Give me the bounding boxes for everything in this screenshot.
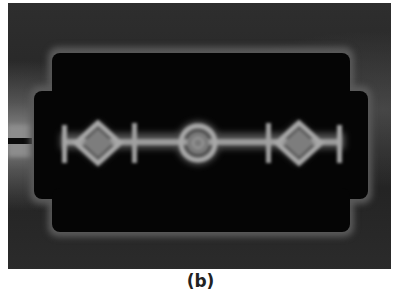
end-bar-right [337,125,342,163]
cross-bar-2 [266,123,271,163]
panel-label: (b) [0,271,401,291]
central-strip [8,3,391,269]
end-bar-left [62,125,67,163]
field-map-image [8,3,391,269]
cross-bar-1 [132,123,137,163]
